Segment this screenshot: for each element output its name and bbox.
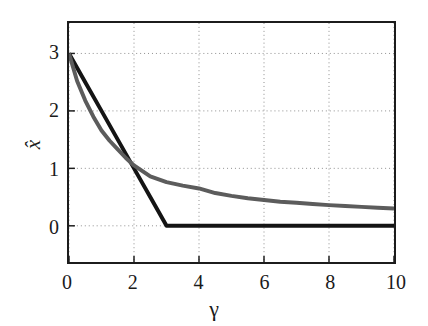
x-tick-label: 0 xyxy=(62,272,72,292)
x-axis-label: γ xyxy=(0,296,428,322)
x-axis-label-text: γ xyxy=(209,296,219,321)
series-line-1 xyxy=(69,53,394,208)
y-tick-label: 2 xyxy=(49,100,59,120)
data-series-group xyxy=(69,23,394,262)
y-tick-label: 1 xyxy=(49,159,59,179)
x-tick-label: 2 xyxy=(128,272,138,292)
y-tick-label: 3 xyxy=(49,42,59,62)
series-line-0 xyxy=(69,53,394,225)
y-tick-label: 0 xyxy=(49,217,59,237)
x-tick-label: 4 xyxy=(194,272,204,292)
x-tick-label: 6 xyxy=(259,272,269,292)
x-tick-label: 8 xyxy=(325,272,335,292)
plot-area xyxy=(67,21,396,264)
x-tick-label-group: 0246810 xyxy=(0,272,428,298)
figure-canvas: x̂ 0123 0246810 γ xyxy=(0,0,428,326)
x-tick-label: 10 xyxy=(386,272,406,292)
